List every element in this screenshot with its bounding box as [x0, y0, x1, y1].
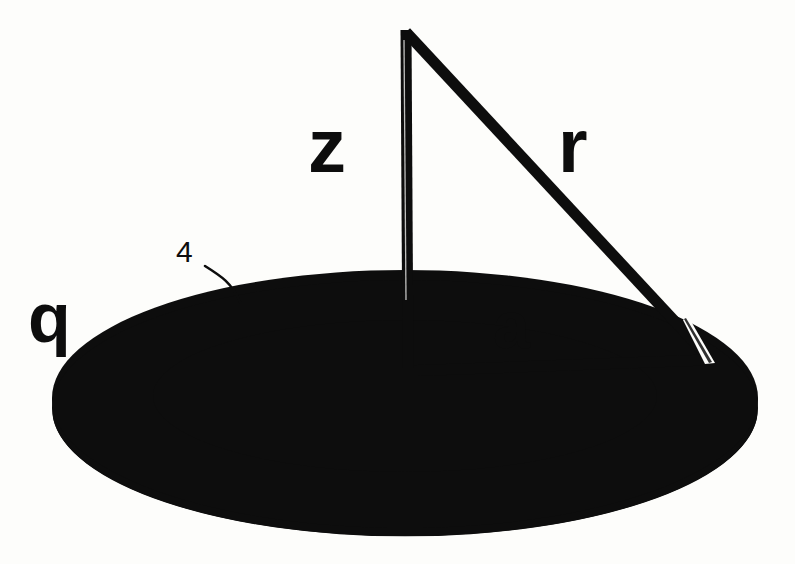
label-axial-distance-z: z: [308, 108, 346, 184]
right-angle-corner: [402, 368, 418, 379]
label-ring-radius-a: a: [493, 292, 530, 358]
axis-segment-z: [406, 30, 408, 376]
ring-geometry-drawing: [0, 0, 795, 564]
figure-canvas: z r a q 4: [0, 0, 795, 564]
label-slant-distance-r: r: [558, 108, 588, 184]
label-charge-q: q: [28, 283, 71, 353]
label-reference-numeral-4: 4: [176, 237, 193, 267]
